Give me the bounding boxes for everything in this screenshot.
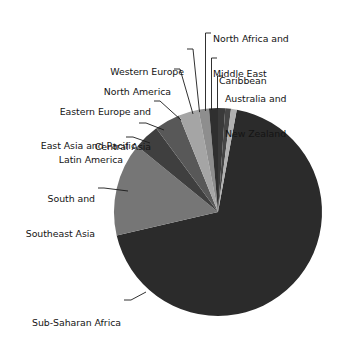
pie-label-north-africa-middle-east-line1: North Africa and	[213, 33, 289, 45]
pie-label-australia-new-zealand-line2: New Zealand	[225, 128, 286, 140]
pie-label-sub-saharan-africa: Sub-Saharan Africa	[0, 294, 121, 338]
leader-line-western-europe	[187, 49, 200, 112]
leader-line-sub-saharan-africa	[124, 292, 146, 300]
pie-label-sub-saharan-africa-line1: Sub-Saharan Africa	[0, 317, 121, 329]
pie-label-south-southeast-asia-line1: South and	[0, 193, 95, 205]
pie-label-south-southeast-asia-line2: Southeast Asia	[0, 228, 95, 240]
leader-line-north-africa-middle-east	[206, 33, 212, 111]
pie-label-australia-new-zealand: Australia and New Zealand	[225, 70, 286, 163]
pie-label-south-southeast-asia: South and Southeast Asia	[0, 170, 95, 263]
pie-label-australia-new-zealand-line1: Australia and	[225, 93, 286, 105]
pie-chart-figure: North Africa and Middle East Caribbean A…	[0, 0, 343, 338]
pie-label-latin-america-line1: Latin America	[0, 154, 123, 166]
